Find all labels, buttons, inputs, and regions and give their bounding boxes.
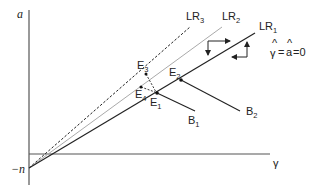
growth-diagram: a γ −n LR3 LR2 LR1 E1 E2 E3 E4 B1 B2 ^ γ…: [0, 0, 324, 191]
svg-text:γ: γ: [270, 47, 276, 59]
svg-text:a: a: [286, 46, 293, 58]
x-axis-label: γ: [273, 157, 279, 169]
b1-label: B1: [188, 114, 200, 129]
svg-text:=: =: [278, 46, 284, 58]
steady-state-equation: ^ γ = ^ a =0: [270, 37, 306, 59]
e4-e1-path: [141, 87, 155, 92]
b2-line: [181, 80, 240, 111]
e1-label: E1: [150, 96, 162, 111]
intercept-label: −n: [11, 162, 25, 176]
svg-text:=0: =0: [293, 46, 306, 58]
lr2-label: LR2: [222, 10, 240, 25]
phase-arrows-above: [208, 41, 230, 55]
e1-point: [155, 91, 159, 95]
e3-label: E3: [137, 59, 149, 74]
lr1-label: LR1: [259, 20, 277, 35]
lr2-line: [29, 27, 222, 168]
phase-arrows-below: [232, 42, 247, 57]
y-axis-label: a: [17, 7, 23, 21]
b1-line: [157, 93, 195, 111]
e2-label: E2: [169, 66, 181, 81]
lr3-label: LR3: [186, 10, 204, 25]
b2-label: B2: [246, 105, 258, 120]
